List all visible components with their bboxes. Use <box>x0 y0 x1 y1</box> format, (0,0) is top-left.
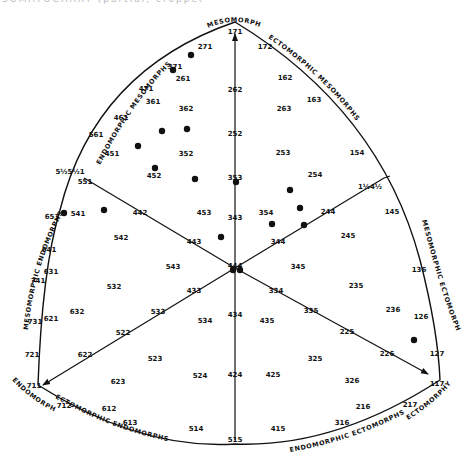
somatotype-label: 261 <box>176 75 191 83</box>
somatotype-label: 244 <box>321 208 336 216</box>
data-point <box>297 205 303 211</box>
somatotype-label: 453 <box>197 209 212 217</box>
somatotype-label: 534 <box>198 317 213 325</box>
somatotype-label: 434 <box>228 311 243 319</box>
somatotype-label: 632 <box>70 308 85 316</box>
somatotype-label: 731 <box>28 318 43 326</box>
somatotype-label: 352 <box>179 150 194 158</box>
somatotype-label: 451 <box>105 150 120 158</box>
somatotype-label: 443 <box>187 238 202 246</box>
somatotype-label: 425 <box>266 371 281 379</box>
somatotype-label: 741 <box>31 277 46 285</box>
axis-endo-ecto-mid <box>84 178 235 268</box>
data-point <box>237 267 243 273</box>
somatotype-label: 345 <box>291 263 306 271</box>
somatotype-label: 622 <box>78 351 93 359</box>
somatotype-label: 711 <box>27 382 42 390</box>
somatotype-label: 126 <box>414 313 429 321</box>
somatotype-label: 461 <box>114 114 129 122</box>
somatotype-label: 226 <box>380 350 395 358</box>
somatotype-label: 623 <box>111 378 126 386</box>
region-endomorphic-ectomorphs: ENDOMORPHIC ECTOMORPHS <box>289 408 406 454</box>
somatotype-label: 145 <box>385 208 400 216</box>
somatotype-label: 217 <box>403 401 418 409</box>
data-point <box>61 210 67 216</box>
data-point <box>188 52 194 58</box>
somatotype-label: 172 <box>258 43 273 51</box>
somatotype-label: 335 <box>304 307 319 315</box>
axis-lines <box>43 34 428 440</box>
region-mesomorphic-ectomorphs: MESOMORPHIC ECTOMORPHS <box>0 0 462 332</box>
data-point <box>233 179 239 185</box>
region-ectomorphic-endomorphs: ECTOMORPHIC ENDOMORPHS <box>54 393 170 443</box>
somatotype-label: 471 <box>139 85 154 93</box>
somatotype-label: 524 <box>193 372 208 380</box>
data-point <box>159 128 165 134</box>
somatotype-label: 235 <box>349 282 364 290</box>
somatotype-label: 621 <box>44 315 59 323</box>
somatotype-label: 515 <box>228 436 243 444</box>
somatotype-label: 532 <box>107 283 122 291</box>
somatotype-label: 641 <box>42 246 57 254</box>
somatotype-label: 343 <box>228 214 243 222</box>
somatotype-label: 721 <box>25 351 40 359</box>
somatotype-label: 631 <box>44 268 59 276</box>
somatotype-label: 5½5½1 <box>55 168 84 176</box>
data-point <box>152 165 158 171</box>
somatotype-label: 245 <box>341 232 356 240</box>
somatotype-label: 541 <box>71 210 86 218</box>
somatotype-label: 361 <box>146 98 161 106</box>
data-point <box>101 207 107 213</box>
somatotype-label: 433 <box>187 287 202 295</box>
somatotype-label: 561 <box>89 131 104 139</box>
data-point <box>411 337 417 343</box>
somatotype-label: 424 <box>228 371 243 379</box>
somatotype-label: 263 <box>277 105 292 113</box>
data-point <box>135 143 141 149</box>
somatotype-label: 344 <box>271 238 286 246</box>
data-point <box>218 234 224 240</box>
data-point <box>301 222 307 228</box>
data-point <box>192 176 198 182</box>
somatotype-label: 271 <box>198 43 213 51</box>
somatotype-label: 225 <box>340 328 355 336</box>
axis-ecto-endo-mid <box>235 178 384 268</box>
somatotype-label: 254 <box>308 171 323 179</box>
somatotype-label: 252 <box>228 130 243 138</box>
somatotype-label: 712 <box>57 402 72 410</box>
pole-mesomorphy: MESOMORPHY <box>0 0 262 30</box>
somatotype-label: 216 <box>356 403 371 411</box>
somatotype-label: 325 <box>308 355 323 363</box>
somatotype-label: 326 <box>345 377 360 385</box>
somatotype-label: 162 <box>278 74 293 82</box>
somatotype-label: 613 <box>123 419 138 427</box>
somatotype-label: 253 <box>276 149 291 157</box>
somatotype-label: 435 <box>260 317 275 325</box>
data-points <box>61 52 417 343</box>
somatotype-label: 612 <box>102 405 117 413</box>
somatotype-label: 316 <box>335 419 350 427</box>
somatotype-label: 127 <box>430 350 445 358</box>
data-point <box>170 67 176 73</box>
somatotype-label: 551 <box>78 178 93 186</box>
somatotype-label: 154 <box>350 149 365 157</box>
somatotype-label: 442 <box>133 209 148 217</box>
somatochart: MESOMORPHY ENDOMORPHY ECTOMORPHY ENDOMOR… <box>0 0 469 460</box>
somatotype-label: 522 <box>116 329 131 337</box>
somatotype-label: 362 <box>179 105 194 113</box>
somatotype-label: 136 <box>412 266 427 274</box>
somatotype-label: 262 <box>228 86 243 94</box>
data-point <box>269 221 275 227</box>
somatotype-label: 354 <box>259 209 274 217</box>
somatotype-label: 415 <box>271 425 286 433</box>
somatotype-label: 452 <box>147 172 162 180</box>
somatotype-label: 651 <box>45 213 60 221</box>
axis-endomorphy <box>43 268 235 385</box>
data-point <box>230 267 236 273</box>
somatotype-label: 542 <box>114 234 129 242</box>
somatotype-label: 523 <box>148 355 163 363</box>
somatotype-label: 543 <box>166 263 181 271</box>
somatotype-label: 514 <box>189 425 204 433</box>
data-point <box>287 187 293 193</box>
data-point <box>184 126 190 132</box>
